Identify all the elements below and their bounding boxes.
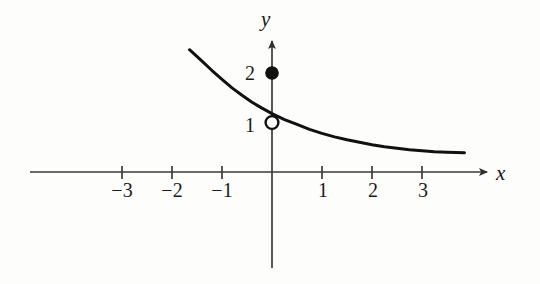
x-tick-label-neg1: −1 bbox=[202, 180, 242, 200]
x-tick-label-pos3: 3 bbox=[403, 180, 443, 200]
x-tick-label-pos2: 2 bbox=[353, 180, 393, 200]
x-tick-label-pos1: 1 bbox=[303, 180, 343, 200]
y-tick-label-1: 1 bbox=[225, 115, 255, 135]
filled-circle-point bbox=[266, 67, 278, 79]
coordinate-plane bbox=[0, 0, 540, 284]
y-axis-label: y bbox=[261, 9, 270, 30]
x-tick-label-neg2: −2 bbox=[152, 180, 192, 200]
graph-figure: x y −3 −2 −1 1 2 3 1 2 bbox=[0, 0, 540, 284]
x-tick-label-neg3: −3 bbox=[102, 180, 142, 200]
x-axis-label: x bbox=[496, 163, 505, 184]
y-tick-label-2: 2 bbox=[225, 63, 255, 83]
open-circle-point bbox=[266, 116, 279, 129]
